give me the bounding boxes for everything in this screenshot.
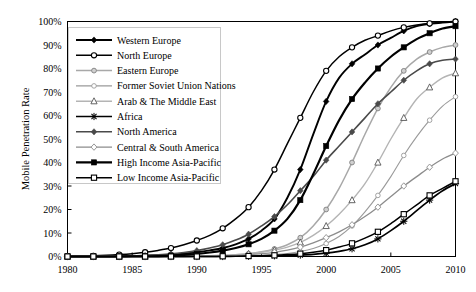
mobile-penetration-line-chart: 0%10%20%30%40%50%60%70%80%90%100% 198019… — [0, 0, 476, 292]
y-tick-label: 90% — [43, 40, 61, 51]
y-tick-label: 40% — [43, 157, 61, 168]
data-point-marker — [401, 68, 406, 73]
data-point-marker — [220, 226, 225, 231]
data-point-marker — [374, 235, 381, 242]
legend-label: High Income Asia-Pacific — [117, 157, 221, 168]
data-point-marker — [298, 251, 303, 256]
data-point-marker — [427, 50, 432, 55]
data-point-marker — [168, 254, 173, 259]
y-tick-label: 20% — [43, 204, 61, 215]
x-tick-label: 1985 — [122, 264, 142, 275]
x-tick-label: 1995 — [252, 264, 272, 275]
data-point-marker — [401, 25, 406, 30]
data-point-marker — [220, 248, 225, 253]
data-point-marker — [349, 241, 354, 246]
data-point-marker — [375, 66, 380, 71]
data-point-marker — [400, 218, 407, 225]
data-point-marker — [272, 228, 277, 233]
y-tick-label: 100% — [38, 16, 61, 27]
y-tick-label: 80% — [43, 63, 61, 74]
legend-label: North America — [117, 126, 177, 137]
x-tick-label: 2010 — [446, 264, 466, 275]
data-point-marker — [92, 68, 97, 73]
data-point-marker — [324, 143, 329, 148]
data-point-marker — [453, 179, 458, 184]
legend-label: North Europe — [117, 50, 172, 61]
data-point-marker — [427, 118, 432, 123]
y-tick-label: 50% — [43, 134, 61, 145]
data-point-marker — [401, 45, 406, 50]
data-point-marker — [194, 238, 199, 243]
data-point-marker — [298, 115, 303, 120]
data-point-marker — [220, 254, 225, 259]
data-point-marker — [246, 253, 251, 258]
legend-label: Former Soviet Union Nations — [117, 80, 236, 91]
x-tick-label: 2005 — [381, 264, 401, 275]
data-point-marker — [401, 212, 406, 217]
data-point-marker — [143, 254, 148, 259]
data-point-marker — [453, 43, 458, 48]
x-tick-label: 1990 — [187, 264, 207, 275]
data-point-marker — [168, 245, 173, 250]
data-point-marker — [65, 254, 70, 259]
y-axis-title: Mobile Penetration Rate — [20, 87, 31, 190]
legend-label: Western Europe — [117, 35, 181, 46]
data-point-marker — [427, 193, 432, 198]
data-point-marker — [272, 253, 277, 258]
y-tick-label: 60% — [43, 110, 61, 121]
chart-container: 0%10%20%30%40%50%60%70%80%90%100% 198019… — [0, 0, 476, 292]
x-tick-label: 2000 — [316, 264, 336, 275]
data-point-marker — [427, 31, 432, 36]
data-point-marker — [272, 167, 277, 172]
data-point-marker — [324, 241, 329, 246]
legend-label: Eastern Europe — [117, 65, 179, 76]
data-point-marker — [324, 207, 329, 212]
data-point-marker — [375, 229, 380, 234]
legend-label: Low Income Asia-Pacific — [117, 172, 220, 183]
chart-legend: Western EuropeNorth EuropeEastern Europe… — [69, 28, 236, 184]
data-point-marker — [194, 254, 199, 259]
data-point-marker — [453, 94, 458, 99]
data-point-marker — [246, 205, 251, 210]
y-tick-label: 0% — [48, 251, 61, 262]
data-point-marker — [91, 175, 96, 180]
data-point-marker — [324, 68, 329, 73]
data-point-marker — [401, 153, 406, 158]
data-point-marker — [92, 84, 97, 89]
data-point-marker — [349, 45, 354, 50]
data-point-marker — [324, 248, 329, 253]
data-point-marker — [91, 53, 96, 58]
x-tick-label: 1980 — [58, 264, 78, 275]
y-tick-label: 30% — [43, 181, 61, 192]
data-point-marker — [246, 242, 251, 247]
data-point-marker — [376, 193, 381, 198]
data-point-marker — [117, 254, 122, 259]
data-point-marker — [91, 160, 96, 165]
data-point-marker — [453, 24, 458, 29]
data-point-marker — [375, 33, 380, 38]
data-point-marker — [427, 21, 432, 26]
data-point-marker — [91, 254, 96, 259]
legend-label: Africa — [117, 111, 143, 122]
data-point-marker — [350, 160, 355, 165]
y-tick-label: 10% — [43, 228, 61, 239]
legend-label: Central & South America — [117, 142, 219, 153]
data-point-marker — [349, 96, 354, 101]
data-point-marker — [298, 198, 303, 203]
data-point-marker — [90, 113, 97, 120]
y-tick-label: 70% — [43, 87, 61, 98]
legend-label: Arab & The Middle East — [117, 96, 216, 107]
